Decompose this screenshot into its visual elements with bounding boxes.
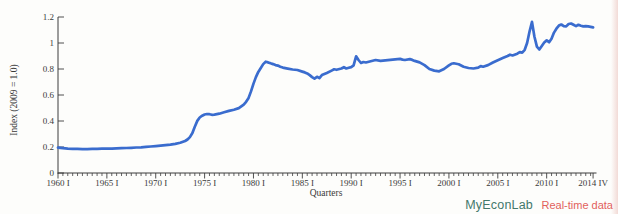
y-tick-label: 0.8: [43, 64, 55, 74]
x-tick-label: 1985 I: [291, 178, 314, 188]
axes: [58, 17, 597, 174]
y-tick-label: 0.4: [43, 116, 55, 126]
y-tick-label: 0.2: [43, 142, 54, 152]
y-tick-label: 0: [50, 168, 55, 178]
axis-ticks: [58, 17, 593, 179]
x-tick-label: 1975 I: [193, 178, 216, 188]
x-tick-label: 2005 I: [486, 178, 509, 188]
axis-tick-labels: 00.20.40.60.811.21960 I1965 I1970 I1975 …: [43, 12, 609, 188]
myeconlab-logo: MyEconLab: [465, 198, 533, 212]
x-tick-label: 2014 IV: [578, 178, 608, 188]
x-tick-label: 2000 I: [437, 178, 460, 188]
x-tick-label: 1995 I: [388, 178, 411, 188]
x-tick-label: 1990 I: [340, 178, 363, 188]
x-axis-title: Quarters: [310, 188, 343, 198]
index-series-line: [58, 22, 593, 149]
data-series: [58, 22, 593, 149]
x-tick-label: 1970 I: [144, 178, 167, 188]
x-tick-label: 1980 I: [242, 178, 265, 188]
y-tick-label: 0.6: [43, 90, 55, 100]
y-tick-label: 1.2: [43, 12, 54, 22]
x-tick-label: 1960 I: [46, 178, 69, 188]
branding: MyEconLab Real-time data: [465, 195, 613, 213]
realtime-data-label: Real-time data: [541, 199, 613, 211]
y-axis-title: Index (2009 = 1.0): [9, 64, 20, 135]
x-tick-label: 2010 I: [535, 178, 558, 188]
index-line-chart: 00.20.40.60.811.21960 I1965 I1970 I1975 …: [0, 0, 618, 214]
x-tick-label: 1965 I: [95, 178, 118, 188]
y-tick-label: 1: [50, 38, 55, 48]
